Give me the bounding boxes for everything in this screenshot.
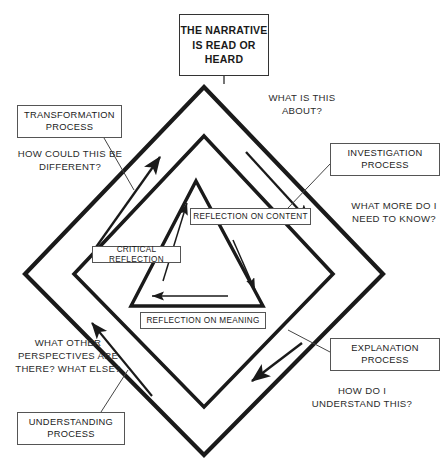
- process-box-transformation-label: TRANSFORMATION PROCESS: [18, 110, 121, 133]
- inner-triangle-shape: [131, 181, 263, 306]
- arrow-reflection-content-flow: [233, 240, 255, 290]
- inner-label-reflection-on-content[interactable]: REFLECTION ON CONTENT: [190, 208, 311, 225]
- process-box-understanding-label: UNDERSTANDING PROCESS: [18, 417, 124, 440]
- narrative-title-box: THE NARRATIVE IS READ OR HEARD: [179, 14, 269, 76]
- question-what-more-do-i-need-to-know: WHAT MORE DO I NEED TO KNOW?: [344, 200, 444, 226]
- process-box-investigation-label: INVESTIGATION PROCESS: [331, 148, 439, 171]
- inner-label-critical-reflection-text: CRITICAL REFLECTION: [93, 245, 180, 265]
- inner-label-reflection-on-meaning[interactable]: REFLECTION ON MEANING: [140, 312, 266, 329]
- question-what-other-perspectives: WHAT OTHER PERSPECTIVES ARE THERE? WHAT …: [10, 337, 126, 376]
- arrow-critical-reflection-flow: [163, 203, 187, 281]
- process-box-transformation[interactable]: TRANSFORMATION PROCESS: [17, 105, 122, 138]
- question-what-is-this-about: WHAT IS THIS ABOUT?: [248, 92, 356, 118]
- inner-label-reflection-on-meaning-text: REFLECTION ON MEANING: [141, 316, 265, 326]
- process-box-explanation[interactable]: EXPLANATION PROCESS: [330, 338, 440, 371]
- question-how-could-this-be-different: HOW COULD THIS BE DIFFERENT?: [14, 148, 126, 174]
- question-how-do-i-understand-this: HOW DO I UNDERSTAND THIS?: [310, 385, 414, 411]
- process-box-understanding[interactable]: UNDERSTANDING PROCESS: [17, 412, 125, 445]
- process-box-explanation-label: EXPLANATION PROCESS: [331, 343, 439, 366]
- process-box-investigation[interactable]: INVESTIGATION PROCESS: [330, 143, 440, 176]
- narrative-title-text: THE NARRATIVE IS READ OR HEARD: [180, 23, 268, 66]
- inner-label-reflection-on-content-text: REFLECTION ON CONTENT: [191, 212, 310, 222]
- leader-line-investigation: [288, 164, 330, 208]
- leader-line-understanding: [101, 370, 128, 412]
- inner-label-critical-reflection[interactable]: CRITICAL REFLECTION: [92, 246, 181, 263]
